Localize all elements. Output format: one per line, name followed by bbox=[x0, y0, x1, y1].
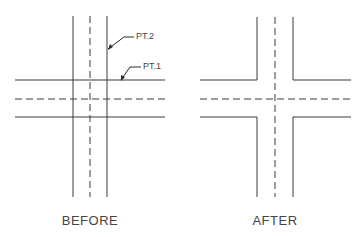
before-intersection bbox=[15, 16, 165, 197]
after-intersection bbox=[200, 17, 351, 197]
after-caption: AFTER bbox=[252, 213, 297, 228]
before-caption: BEFORE bbox=[62, 213, 118, 228]
pt1-callout-label: PT.1 bbox=[143, 61, 161, 71]
after-top-right-corner bbox=[293, 17, 351, 80]
pt2-callout-label: PT.2 bbox=[136, 31, 154, 41]
pt2-arrowhead-icon bbox=[108, 44, 113, 50]
after-top-left-corner bbox=[200, 17, 257, 80]
diagram-canvas bbox=[0, 0, 363, 237]
pt1-leader-line bbox=[121, 67, 141, 80]
after-bottom-right-corner bbox=[293, 117, 351, 197]
after-bottom-left-corner bbox=[200, 117, 257, 197]
